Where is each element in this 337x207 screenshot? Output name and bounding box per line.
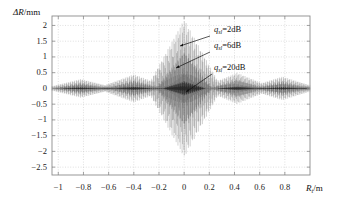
figure-container: ΔR/mm Rt/m 21.510.50−0.5−1−1.5−2−2.5 −1−… bbox=[0, 0, 337, 207]
x-tick-label: −1 bbox=[44, 182, 72, 192]
y-tick-label: −1 bbox=[21, 114, 47, 124]
y-axis-label: ΔR/mm bbox=[13, 7, 40, 17]
x-axis-label: Rt/m bbox=[306, 183, 323, 194]
x-tick-label: 0.4 bbox=[220, 182, 248, 192]
ann-6db: qsl=6dB bbox=[214, 40, 241, 51]
x-tick-label: 0.2 bbox=[195, 182, 223, 192]
y-tick-label: −2 bbox=[21, 146, 47, 156]
x-tick-label: −0.2 bbox=[145, 182, 173, 192]
y-tick-label: 0 bbox=[21, 83, 47, 93]
ann-6db-value: =6dB bbox=[222, 40, 241, 50]
ann-2db: qsl=2dB bbox=[214, 24, 241, 35]
ann-20db: qsl=20dB bbox=[214, 62, 245, 73]
y-tick-label: 2 bbox=[21, 20, 47, 30]
y-tick-label: 1 bbox=[21, 51, 47, 61]
chart-canvas bbox=[0, 0, 337, 207]
x-tick-label: 0 bbox=[170, 182, 198, 192]
x-tick-label: −0.6 bbox=[95, 182, 123, 192]
x-tick-label: 0.6 bbox=[246, 182, 274, 192]
y-tick-label: 1.5 bbox=[21, 36, 47, 46]
y-tick-label: −1.5 bbox=[21, 130, 47, 140]
x-axis-label-unit: /m bbox=[313, 183, 323, 193]
ann-2db-value: =2dB bbox=[222, 24, 241, 34]
y-tick-label: 0.5 bbox=[21, 67, 47, 77]
x-tick-label: 0.8 bbox=[271, 182, 299, 192]
ann-20db-value: =20dB bbox=[222, 62, 245, 72]
x-tick-label: −0.4 bbox=[120, 182, 148, 192]
x-tick-label: −0.8 bbox=[69, 182, 97, 192]
y-axis-label-text: ΔR bbox=[13, 7, 24, 17]
y-tick-label: −0.5 bbox=[21, 99, 47, 109]
y-tick-label: −2.5 bbox=[21, 162, 47, 172]
